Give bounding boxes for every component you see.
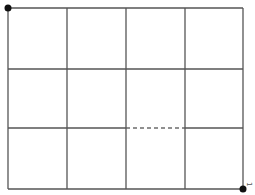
grid-diagram	[0, 0, 255, 195]
start-point	[5, 5, 12, 12]
end-point-label: 1	[245, 182, 253, 186]
end-point	[240, 186, 247, 193]
